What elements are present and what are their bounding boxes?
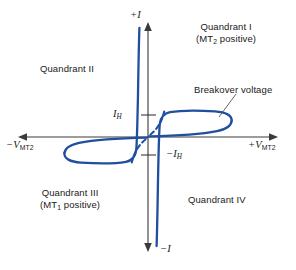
label-quadrant-3: Quandrant III (MT1 positive) xyxy=(40,187,100,213)
label-quadrant-1-line2: (MT2 positive) xyxy=(196,33,256,44)
axis-label-positive-current: +I xyxy=(130,9,141,21)
curve-quadrant-1-forward-blocking xyxy=(149,121,232,137)
tick-label-holding-current-positive: IH xyxy=(113,108,122,124)
tick-label-holding-current-negative: −IH xyxy=(166,148,182,164)
axis-label-negative-voltage: −VMT2 xyxy=(6,139,34,154)
label-quadrant-1-line1: Quandrant I xyxy=(200,21,251,32)
label-quadrant-2-text: Quandrant II xyxy=(40,63,94,74)
axis-arrow-down xyxy=(144,243,152,252)
label-quadrant-4-text: Quandrant IV xyxy=(188,194,246,205)
label-quadrant-1: Quandrant I (MT2 positive) xyxy=(196,21,256,47)
axis-label-negative-current: −I xyxy=(160,243,171,255)
label-quadrant-3-line1: Quandrant III xyxy=(42,187,99,198)
axis-label-positive-voltage: +VMT2 xyxy=(248,139,276,154)
label-quadrant-2: Quandrant II xyxy=(40,63,94,75)
label-quadrant-4: Quandrant IV xyxy=(188,194,246,206)
curve-quadrant-3-negative-resistance xyxy=(132,140,146,163)
triac-vi-characteristic-figure: Quandrant I (MT2 positive) Quandrant II … xyxy=(0,0,296,270)
curve-quadrant-3-reverse-blocking xyxy=(64,138,147,154)
label-quadrant-3-line2: (MT1 positive) xyxy=(40,199,100,210)
label-breakover-voltage-text: Breakover voltage xyxy=(194,84,272,95)
axis-arrow-up xyxy=(144,22,152,31)
label-breakover-voltage: Breakover voltage xyxy=(194,84,272,96)
